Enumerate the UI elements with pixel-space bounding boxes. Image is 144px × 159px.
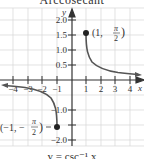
point-label-1-open: (1, (92, 27, 103, 39)
x-tick-label: −1 (52, 84, 62, 94)
point-label-1-num: π (114, 24, 119, 33)
arrow-right-icon (135, 72, 142, 77)
point-label-1-den: 2 (114, 34, 118, 43)
y-axis-label: y (61, 7, 66, 17)
y-tick-label: 1.5 (56, 30, 68, 40)
chart-plot: −4 −3 −2 −1 1 2 3 4 x 2.0 1.5 1.0 0.5 −1… (0, 0, 144, 159)
point-label-2-open: (−1, − (0, 122, 25, 134)
x-tick-label: 1 (84, 84, 89, 94)
x-tick-label: 4 (128, 84, 133, 94)
svg-text:): ) (39, 120, 43, 134)
endpoint-marker (83, 30, 89, 36)
chart-caption: y = csc⁻¹ x (0, 150, 144, 159)
point-label-2-den: 2 (32, 128, 36, 137)
y-axis-arrow-icon (69, 9, 75, 17)
x-axis-label: x (137, 83, 142, 93)
y-tick-label: 1.0 (56, 45, 68, 55)
y-tick-label: −1.0 (51, 105, 68, 115)
arrow-left-icon (1, 83, 8, 88)
svg-text:): ) (121, 25, 125, 39)
y-tick-label: 0.5 (56, 60, 68, 70)
endpoint-marker (54, 124, 60, 130)
x-tick-label: 2 (99, 84, 104, 94)
x-tick-label: 3 (113, 84, 118, 94)
y-tick-label: −2.0 (51, 135, 68, 145)
